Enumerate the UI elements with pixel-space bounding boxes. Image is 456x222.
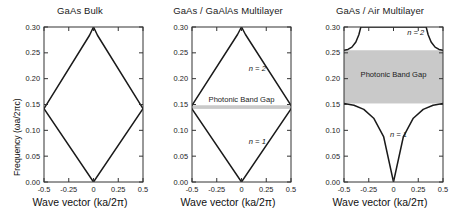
band-curve-2 bbox=[44, 27, 143, 109]
x-tick-label: 0.5 bbox=[286, 185, 296, 194]
x-tick-label: 0.25 bbox=[111, 185, 125, 194]
x-tick-label: 0.5 bbox=[138, 185, 148, 194]
y-tick-label: 0.25 bbox=[26, 48, 40, 57]
y-tick-label: 0.20 bbox=[326, 74, 340, 83]
band-curve-1 bbox=[192, 109, 291, 182]
y-tick-label: 0.20 bbox=[174, 74, 188, 83]
chart-panel-3: GaAs / Air MultilayerPhotonic Band Gapn … bbox=[304, 0, 456, 222]
band-curve-1 bbox=[44, 109, 143, 182]
y-tick-label: 0.10 bbox=[326, 126, 340, 135]
band-curve-1 bbox=[344, 103, 443, 182]
x-tick-label: 0 bbox=[239, 185, 243, 194]
x-axis-title: Wave vector (ka/2π) bbox=[304, 196, 456, 208]
x-tick-label: -0.25 bbox=[208, 185, 225, 194]
x-tick-label: 0 bbox=[391, 185, 395, 194]
y-tick-label: 0.05 bbox=[26, 152, 40, 161]
y-tick-label: 0.10 bbox=[26, 126, 40, 135]
y-tick-label: 0.20 bbox=[26, 74, 40, 83]
x-tick-label: -0.25 bbox=[360, 185, 377, 194]
y-tick-label: 0.25 bbox=[174, 48, 188, 57]
y-axis-title: Frequency (ωa/2πc) bbox=[12, 98, 22, 176]
band-gap-region bbox=[192, 105, 291, 109]
plot-frame bbox=[192, 27, 291, 182]
band-index-label: n = 2 bbox=[249, 64, 267, 73]
x-tick-label: 0 bbox=[91, 185, 95, 194]
y-tick-label: 0.10 bbox=[174, 126, 188, 135]
chart-panel-1: GaAs Bulk0.000.050.100.150.200.250.30-0.… bbox=[0, 0, 160, 222]
y-tick-label: 0.15 bbox=[26, 100, 40, 109]
x-axis-title: Wave vector (ka/2π) bbox=[0, 196, 160, 208]
x-tick-label: -0.5 bbox=[186, 185, 199, 194]
band-gap-label: Photonic Band Gap bbox=[361, 70, 427, 79]
x-tick-label: 0.25 bbox=[411, 185, 425, 194]
y-tick-label: 0.30 bbox=[326, 23, 340, 32]
x-tick-label: 0.5 bbox=[438, 185, 448, 194]
band-index-label: n = 1 bbox=[390, 130, 407, 139]
y-tick-label: 0.05 bbox=[174, 152, 188, 161]
plot-area: Photonic Band Gapn = 2n = 10.000.050.100… bbox=[152, 0, 304, 222]
y-tick-label: 0.15 bbox=[174, 100, 188, 109]
photonic-band-structure-figure: GaAs Bulk0.000.050.100.150.200.250.30-0.… bbox=[0, 0, 456, 222]
plot-area: 0.000.050.100.150.200.250.30-0.5-0.2500.… bbox=[0, 0, 160, 222]
y-tick-label: 0.15 bbox=[326, 100, 340, 109]
x-axis-title: Wave vector (ka/2π) bbox=[152, 196, 304, 208]
y-tick-label: 0.05 bbox=[326, 152, 340, 161]
plot-frame bbox=[44, 27, 143, 182]
y-tick-label: 0.30 bbox=[174, 23, 188, 32]
band-index-label: n = 2 bbox=[407, 28, 425, 37]
y-tick-label: 0.25 bbox=[326, 48, 340, 57]
x-tick-label: -0.5 bbox=[38, 185, 51, 194]
band-gap-label: Photonic Band Gap bbox=[209, 95, 275, 104]
x-tick-label: 0.25 bbox=[259, 185, 273, 194]
band-curve-2 bbox=[192, 27, 291, 105]
x-tick-label: -0.25 bbox=[60, 185, 77, 194]
chart-panel-2: GaAs / GaAlAs MultilayerPhotonic Band Ga… bbox=[152, 0, 304, 222]
band-index-label: n = 1 bbox=[249, 137, 266, 146]
plot-area: Photonic Band Gapn = 2n = 10.000.050.100… bbox=[304, 0, 456, 222]
x-tick-label: -0.5 bbox=[338, 185, 351, 194]
y-tick-label: 0.30 bbox=[26, 23, 40, 32]
